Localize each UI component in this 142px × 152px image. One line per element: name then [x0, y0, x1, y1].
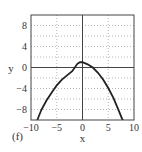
y-tick-label: 8 — [22, 20, 27, 31]
x-axis-label: x — [80, 132, 86, 144]
panel-label: (f) — [12, 130, 23, 143]
x-tick-label: 10 — [129, 122, 139, 133]
chart: −10−50510 −8−4048 x y (f) — [0, 0, 142, 152]
y-tick-label: −4 — [16, 83, 27, 94]
x-tick-label: 5 — [106, 122, 111, 133]
y-axis-label: y — [8, 62, 14, 74]
zero-axes — [31, 15, 134, 120]
y-tick-label: 0 — [22, 62, 27, 73]
y-tick-label: 4 — [22, 41, 27, 52]
x-tick-label: −10 — [23, 122, 39, 133]
y-tick-labels: −8−4048 — [16, 20, 27, 115]
y-tick-label: −8 — [16, 104, 27, 115]
x-tick-label: −5 — [51, 122, 62, 133]
